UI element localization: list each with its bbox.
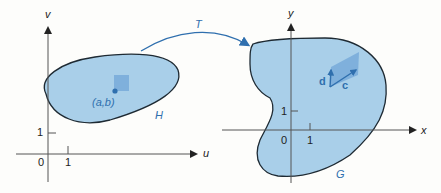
region-h-label: H [155,109,163,121]
region-g [250,38,386,176]
u-axis-label: u [203,147,209,159]
vector-c-label: c [342,79,348,91]
point-ab-label: (a,b) [92,96,115,108]
region-g-label: G [336,168,345,180]
small-rectangle [114,75,129,91]
transform-label: T [195,18,203,30]
uv-plane: v u 0 1 1 H (a,b) [16,8,209,182]
y-axis-label: y [287,7,295,19]
xy-plane: d c y x 0 1 1 G [222,7,427,183]
point-ab [112,88,117,93]
v-axis-label: v [45,8,52,20]
y-tick-label: 1 [281,105,287,117]
change-of-variables-diagram: v u 0 1 1 H (a,b) T d c y x 0 1 1 G [0,0,441,193]
origin-label: 0 [281,134,287,146]
transform-mapping: T [141,18,248,51]
x-axis-label: x [420,124,427,136]
v-tick-label: 1 [37,126,43,138]
vector-d-label: d [319,75,326,87]
x-tick-label: 1 [307,134,313,146]
vector-d [330,70,331,87]
transform-arrow [141,32,248,51]
origin-label: 0 [38,156,44,168]
u-tick-label: 1 [65,156,71,168]
